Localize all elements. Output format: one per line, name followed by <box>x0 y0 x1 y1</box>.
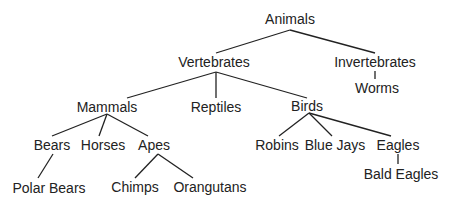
node-bald-eagles: Bald Eagles <box>364 167 439 181</box>
node-mammals: Mammals <box>77 100 138 114</box>
node-robins: Robins <box>255 138 299 152</box>
node-bears: Bears <box>34 138 71 152</box>
node-vertebrates: Vertebrates <box>178 55 250 69</box>
node-eagles: Eagles <box>377 138 420 152</box>
node-blue-jays: Blue Jays <box>305 138 366 152</box>
node-apes: Apes <box>138 138 170 152</box>
node-orangutans: Orangutans <box>173 180 246 194</box>
node-worms: Worms <box>355 81 399 95</box>
node-reptiles: Reptiles <box>191 100 242 114</box>
node-animals: Animals <box>265 12 315 26</box>
node-chimps: Chimps <box>111 180 158 194</box>
node-polar-bears: Polar Bears <box>12 181 85 195</box>
node-horses: Horses <box>81 138 125 152</box>
node-birds: Birds <box>291 99 323 113</box>
node-invertebrates: Invertebrates <box>334 55 416 69</box>
